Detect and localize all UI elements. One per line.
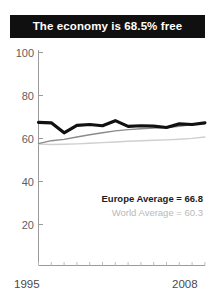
x-tick-label-end: 2008	[172, 278, 198, 290]
economy-freedom-chart: The economy is 68.5% free	[0, 0, 214, 304]
x-tick-label-start: 1995	[14, 278, 40, 290]
y-tick-marks	[39, 53, 44, 225]
y-tick-label-80: 80	[22, 90, 34, 102]
chart-plot-area: 100 80 60 40 20 1995 2008 Europe Average…	[0, 0, 214, 304]
series-line-world-average	[39, 137, 205, 144]
x-tick-marks	[39, 262, 205, 266]
legend-world-average: World Average = 60.3	[112, 207, 203, 218]
y-tick-label-20: 20	[22, 219, 34, 231]
y-tick-label-60: 60	[22, 133, 34, 145]
y-tick-label-100: 100	[16, 47, 34, 59]
y-tick-label-40: 40	[22, 176, 34, 188]
legend-europe-average: Europe Average = 66.8	[102, 193, 203, 204]
